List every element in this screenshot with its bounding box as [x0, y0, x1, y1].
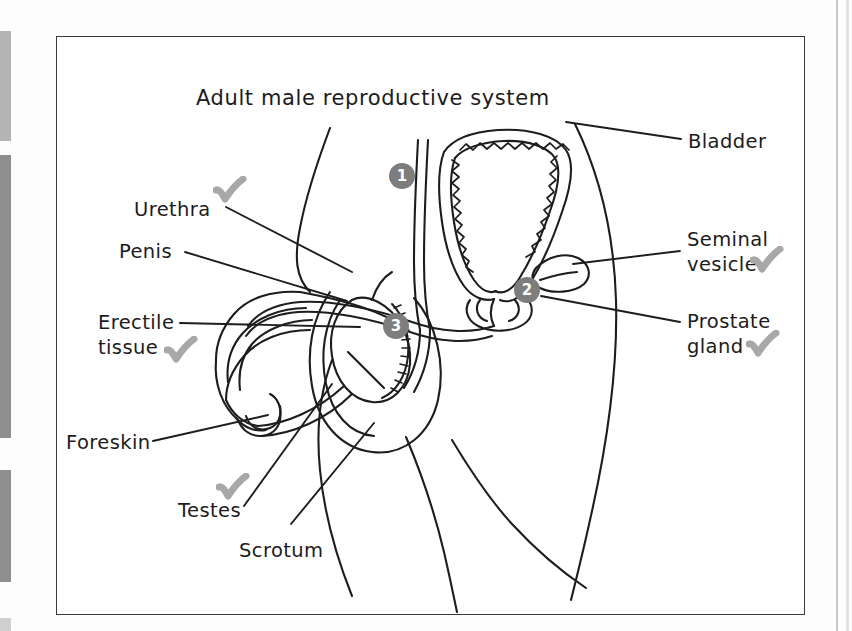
bladder-neck-funnel [491, 299, 494, 326]
diagram-marker-1[interactable]: 1 [389, 163, 415, 189]
urethra-tube-2 [246, 312, 492, 341]
label-bladder: Bladder [688, 129, 766, 154]
label-testes: Testes [178, 498, 241, 523]
body-outline-torso [297, 128, 330, 292]
testis-inner-line [348, 352, 384, 388]
spermatic-cord [372, 272, 392, 300]
body-outline-thigh-back [452, 440, 586, 588]
leader-penis [185, 252, 347, 301]
bladder-outer-wall-left [439, 152, 494, 300]
leader-urethra [226, 207, 352, 272]
label-scrotum: Scrotum [239, 538, 323, 563]
prostate-gland-shape [467, 298, 532, 331]
penis-underside [258, 386, 344, 426]
body-outline-thigh-front [406, 437, 457, 612]
scrotum-outline [310, 292, 441, 452]
leader-bladder [566, 122, 681, 139]
seminal-vesicle-duct [540, 272, 577, 280]
label-seminal-vesicle: Seminal vesicle [687, 227, 768, 277]
page-canvas: Adult male reproductive system Urethra P… [0, 0, 852, 631]
penis-shaft-bottom [226, 330, 310, 400]
label-erectile-tissue: Erectile tissue [98, 310, 174, 360]
body-outline-buttock [571, 124, 616, 600]
leader-seminal-vesicle [573, 251, 680, 264]
leader-scrotum [291, 423, 374, 524]
prostate-inner-left [477, 300, 487, 321]
urethra-tube [248, 302, 494, 331]
bladder-rugae-left [452, 160, 473, 272]
page-title: Adult male reproductive system [196, 86, 550, 110]
label-foreskin: Foreskin [66, 430, 150, 455]
bladder-rugae-top [460, 143, 569, 150]
body-outline-pubic [300, 292, 396, 322]
diagram-marker-3[interactable]: 3 [383, 313, 409, 339]
prostate-inner-right [509, 300, 519, 321]
vas-deferens-upper-2 [424, 140, 430, 330]
label-urethra: Urethra [134, 197, 211, 222]
diagram-marker-2[interactable]: 2 [514, 277, 540, 303]
leader-prostate-gland [541, 296, 680, 322]
label-prostate-gland: Prostate gland [687, 309, 771, 359]
label-penis: Penis [119, 239, 172, 264]
